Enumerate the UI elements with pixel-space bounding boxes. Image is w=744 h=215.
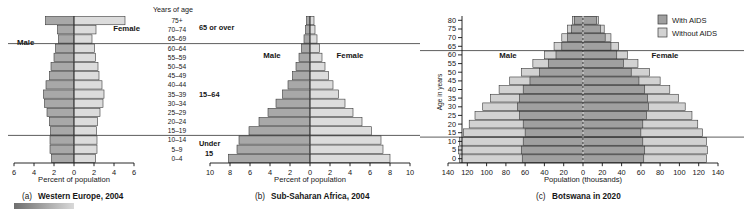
- age-label: 5–9: [171, 146, 182, 153]
- bar-female: [74, 44, 95, 52]
- bar-with-aids-male: [519, 94, 583, 102]
- age-label: 70–74: [168, 26, 187, 33]
- bar-with-aids-male: [540, 68, 583, 76]
- bar-male: [239, 136, 310, 144]
- bar-male: [293, 72, 311, 80]
- bar-with-aids-female: [583, 120, 643, 128]
- chart-c-male-label: Male: [499, 51, 517, 60]
- bar-with-aids-male: [523, 120, 583, 128]
- bar-with-aids-female: [583, 112, 647, 120]
- chart-a-male-label: Male: [17, 38, 35, 47]
- bar-male: [304, 35, 310, 43]
- bar-with-aids-male: [521, 146, 583, 154]
- chart-b-male-label: Male: [263, 51, 281, 60]
- chart-b-bars: [229, 16, 391, 163]
- bar-female: [310, 35, 317, 43]
- chart-c-caption-prefix: (c): [536, 192, 546, 201]
- y-tick-label: 80: [448, 16, 456, 25]
- bar-male: [46, 16, 75, 24]
- bar-female: [74, 136, 97, 144]
- chart-panel-b: 1086420246810 Percent of population (b) …: [200, 0, 420, 215]
- age-label: 15–19: [168, 127, 187, 134]
- chart-a-bars: [44, 16, 126, 163]
- bar-with-aids-male: [519, 112, 583, 120]
- bar-female: [310, 154, 390, 162]
- x-tick-label: 100: [673, 168, 685, 177]
- age-label: 55–59: [168, 54, 187, 61]
- bar-female: [310, 136, 381, 144]
- chart-b-xaxis-label: Percent of population: [274, 175, 346, 184]
- x-tick-label: 6: [132, 168, 136, 177]
- bar-female: [310, 108, 353, 116]
- bar-female: [310, 16, 314, 24]
- x-tick-label: 120: [693, 168, 705, 177]
- bar-male: [50, 118, 75, 126]
- chart-a-axis: [14, 163, 134, 166]
- bar-female: [74, 35, 92, 43]
- chart-c-female-label: Female: [652, 51, 680, 60]
- bar-male: [237, 145, 310, 153]
- x-tick-label: 140: [442, 168, 454, 177]
- bar-male: [268, 108, 310, 116]
- x-tick-label: 4: [112, 168, 116, 177]
- chart-c-ytick-labels: 80757065605550454035302520151050: [448, 16, 456, 163]
- x-tick-label: 4: [268, 168, 272, 177]
- bar-female: [310, 118, 362, 126]
- bar-with-aids-female: [583, 94, 648, 102]
- bar-male: [288, 81, 310, 89]
- bar-with-aids-female: [583, 51, 617, 59]
- bar-female: [74, 127, 97, 135]
- chart-b-svg: 1086420246810 Percent of population (b) …: [200, 0, 420, 215]
- age-label: 40–44: [168, 81, 187, 88]
- bar-female: [310, 26, 315, 34]
- legend-label-with-aids: With AIDS: [672, 16, 707, 25]
- population-pyramids-figure: 6420246 Percent of population (a) Wester…: [0, 0, 744, 215]
- bar-female: [74, 145, 97, 153]
- bar-male: [50, 145, 74, 153]
- bar-female: [74, 99, 103, 107]
- y-tick-label: 25: [448, 111, 456, 120]
- bar-with-aids-male: [525, 129, 583, 137]
- bar-male: [276, 99, 310, 107]
- bar-with-aids-male: [574, 16, 583, 24]
- chart-a-xaxis-label: Percent of population: [38, 175, 110, 184]
- bar-male: [51, 127, 75, 135]
- bar-male: [229, 154, 311, 162]
- bar-with-aids-female: [583, 103, 649, 111]
- chart-c-xaxis-label: Population (thousands): [544, 175, 623, 184]
- bar-female: [310, 62, 325, 70]
- y-tick-label: 5: [452, 145, 456, 154]
- bar-with-aids-male: [562, 42, 583, 50]
- bar-with-aids-male: [548, 60, 583, 68]
- bar-male: [299, 53, 310, 61]
- bar-male: [307, 16, 311, 24]
- bar-with-aids-female: [583, 86, 645, 94]
- x-tick-label: 140: [712, 168, 724, 177]
- bar-with-aids-female: [583, 146, 645, 154]
- bar-with-aids-male: [523, 138, 583, 146]
- bar-male: [58, 26, 75, 34]
- bar-female: [74, 90, 104, 98]
- x-tick-label: 80: [502, 168, 510, 177]
- bar-female: [74, 154, 96, 162]
- age-label-column: Years of age 75+70–7465–6960–6455–5950–5…: [143, 0, 203, 215]
- bar-with-aids-male: [568, 34, 583, 42]
- bar-female: [310, 72, 329, 80]
- bar-male: [56, 44, 75, 52]
- decorative-gradient-bar: [14, 203, 74, 209]
- age-label: 30–34: [168, 100, 187, 107]
- chart-b-female-label: Female: [337, 51, 365, 60]
- x-tick-label: 80: [656, 168, 664, 177]
- bar-with-aids-female: [583, 34, 605, 42]
- y-tick-label: 60: [448, 50, 456, 59]
- bar-female: [310, 145, 383, 153]
- x-tick-label: 60: [521, 168, 529, 177]
- bar-male: [283, 90, 311, 98]
- bar-female: [74, 26, 96, 34]
- bar-with-aids-female: [583, 42, 611, 50]
- bar-male: [54, 53, 74, 61]
- bar-with-aids-female: [583, 68, 631, 76]
- bar-with-aids-female: [583, 155, 644, 163]
- bar-female: [74, 72, 99, 80]
- x-tick-label: 6: [12, 168, 16, 177]
